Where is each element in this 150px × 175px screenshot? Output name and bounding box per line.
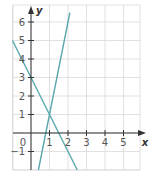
y-tick-label: 2	[19, 91, 25, 102]
y-tick-label: 4	[19, 54, 25, 65]
x-axis-arrow-icon	[138, 130, 146, 136]
y-axis-label: y	[36, 5, 43, 16]
x-tick-label: 2	[65, 137, 71, 148]
y-tick-label: 1	[19, 109, 25, 120]
x-tick-label: 5	[120, 137, 126, 148]
origin-label: 0	[20, 137, 26, 148]
x-axis-label: x	[141, 137, 149, 148]
x-tick-label: 1	[46, 137, 52, 148]
y-axis-arrow-icon	[28, 6, 34, 14]
x-tick-label: 3	[83, 137, 89, 148]
coordinate-graph: 12345−11234560xy	[0, 0, 150, 175]
x-tick-label: 4	[102, 137, 108, 148]
y-tick-label: 6	[19, 17, 25, 28]
y-tick-label: 5	[19, 35, 25, 46]
y-tick-label: 3	[19, 72, 25, 83]
